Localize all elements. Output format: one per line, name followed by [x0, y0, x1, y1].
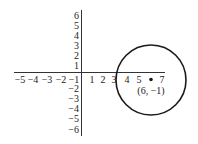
x-tick-labels: −5 −4 −3 −2 −1 1 2 3 4 5 7 — [15, 74, 165, 85]
x-tick: −3 — [42, 74, 53, 85]
x-tick: 1 — [90, 74, 95, 85]
x-tick: −2 — [56, 74, 67, 85]
y-tick: 1 — [74, 60, 79, 71]
x-tick: 7 — [160, 74, 165, 85]
center-point — [149, 78, 153, 82]
x-tick: −5 — [15, 74, 26, 85]
point-label: (6, −1) — [137, 85, 164, 97]
x-tick: 5 — [137, 74, 142, 85]
y-tick: −6 — [68, 124, 79, 135]
x-tick: 4 — [125, 74, 130, 85]
coordinate-plane: 6 5 4 3 2 1 −2 −3 −4 −5 −6 −5 −4 −3 −2 −… — [0, 0, 198, 144]
y-tick: −5 — [68, 113, 79, 124]
x-tick: −4 — [28, 74, 39, 85]
x-tick: −1 — [69, 74, 80, 85]
x-tick: 2 — [101, 74, 106, 85]
